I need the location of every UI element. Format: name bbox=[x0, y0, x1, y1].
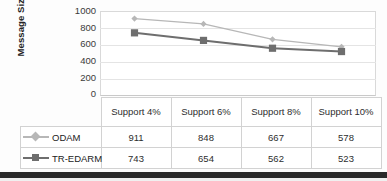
legend-entry-odam: ODAM bbox=[21, 127, 102, 148]
diamond-marker-icon bbox=[269, 36, 275, 42]
square-marker-icon bbox=[338, 48, 345, 55]
y-tick-1000: 1000 bbox=[52, 6, 96, 16]
diamond-marker-icon bbox=[200, 21, 206, 27]
cell-tredarm-1: 654 bbox=[171, 148, 241, 169]
y-axis-tick-labels: 1000 800 600 400 200 0 bbox=[50, 11, 96, 96]
series-line bbox=[135, 19, 342, 47]
square-marker-icon bbox=[269, 45, 276, 52]
series-tr-edarm bbox=[131, 29, 345, 55]
category-label: Support 8% bbox=[242, 107, 311, 118]
cell-tredarm-3: 523 bbox=[311, 148, 381, 169]
legend-key-tredarm bbox=[23, 153, 49, 163]
cell-odam-0: 911 bbox=[101, 127, 171, 148]
category-header-1: Support 6% bbox=[171, 98, 241, 127]
y-tick-400: 400 bbox=[52, 56, 96, 66]
category-header-0: Support 4% bbox=[101, 98, 171, 127]
table-row: ODAM 911 848 667 578 bbox=[21, 127, 382, 148]
category-label: Support 10% bbox=[312, 107, 381, 118]
table-row: TR-EDARM 743 654 562 523 bbox=[21, 148, 382, 169]
square-marker-icon bbox=[32, 154, 39, 161]
legend-label-odam: ODAM bbox=[52, 132, 81, 143]
y-tick-200: 200 bbox=[52, 73, 96, 83]
square-marker-icon bbox=[200, 37, 207, 44]
legend-key-odam bbox=[23, 132, 49, 142]
plot-area bbox=[100, 11, 376, 96]
diamond-marker-icon bbox=[131, 15, 137, 21]
legend-entry-tredarm: TR-EDARM bbox=[21, 148, 102, 169]
message-size-line-chart: Message Size 1000 800 600 400 200 0 Supp… bbox=[0, 0, 387, 181]
y-tick-600: 600 bbox=[52, 39, 96, 49]
category-label: Support 4% bbox=[102, 107, 171, 118]
y-tick-800: 800 bbox=[52, 23, 96, 33]
series-line bbox=[135, 33, 342, 52]
square-marker-icon bbox=[131, 29, 138, 36]
chart-data-table: Support 4% Support 6% Support 8% Support… bbox=[20, 97, 382, 169]
cell-tredarm-0: 743 bbox=[101, 148, 171, 169]
legend-label-tredarm: TR-EDARM bbox=[52, 153, 102, 164]
table-header-row: Support 4% Support 6% Support 8% Support… bbox=[21, 98, 382, 127]
cell-odam-1: 848 bbox=[171, 127, 241, 148]
category-label: Support 6% bbox=[172, 107, 241, 118]
series-plot bbox=[100, 11, 376, 96]
cell-odam-2: 667 bbox=[241, 127, 311, 148]
diamond-marker-icon bbox=[31, 132, 41, 142]
y-axis-title: Message Size bbox=[15, 0, 29, 70]
cell-odam-3: 578 bbox=[311, 127, 381, 148]
category-header-3: Support 10% bbox=[311, 98, 381, 127]
cell-tredarm-2: 562 bbox=[241, 148, 311, 169]
category-header-2: Support 8% bbox=[241, 98, 311, 127]
table-corner-cell bbox=[21, 98, 102, 127]
page-edge-band-lower bbox=[0, 178, 387, 181]
